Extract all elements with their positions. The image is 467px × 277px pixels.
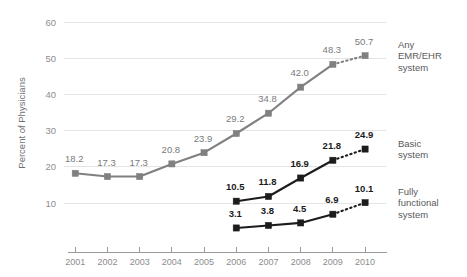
legend-label-line: system: [398, 209, 428, 220]
x-axis-tick-label: 2001: [65, 257, 85, 267]
data-point-label: 6.9: [325, 194, 338, 205]
data-point-marker: [104, 173, 110, 179]
y-axis-tick-label: 50: [45, 53, 56, 64]
series-fully-functional-system: 3.13.84.56.910.1: [229, 183, 374, 231]
data-point-label: 17.3: [97, 157, 116, 168]
data-point-marker: [265, 193, 271, 199]
data-point-marker: [265, 110, 271, 116]
data-point-label: 4.5: [293, 203, 307, 214]
legend-item-any-emr-ehr-system: AnyEMR/EHRsystem: [398, 39, 442, 73]
data-point-label: 11.8: [258, 176, 276, 187]
data-point-label: 3.1: [229, 208, 243, 219]
data-point-marker: [72, 170, 78, 176]
x-axis-tick-label: 2008: [291, 257, 311, 267]
data-point-marker: [201, 150, 207, 156]
y-axis-tick-label: 20: [45, 161, 56, 172]
series-line-projected: [333, 56, 365, 65]
series-any-emr-ehr-system: 18.217.317.320.823.929.234.842.048.350.7: [65, 36, 373, 180]
x-axis-tick-label: 2006: [226, 257, 246, 267]
y-axis-tick-label: 60: [45, 17, 56, 28]
data-point-marker: [265, 222, 271, 228]
legend-label-line: EMR/EHR: [398, 50, 442, 61]
x-axis-tick-label: 2002: [97, 257, 117, 267]
x-axis-tick-label: 2004: [162, 257, 182, 267]
line-chart: 102030405060Percent of Physicians2001200…: [0, 0, 467, 277]
data-point-marker: [362, 200, 368, 206]
data-point-label: 18.2: [65, 153, 84, 164]
legend-label-line: functional: [398, 197, 439, 208]
data-point-label: 42.0: [290, 67, 309, 78]
data-point-marker: [298, 220, 304, 226]
data-point-label: 10.5: [226, 181, 245, 192]
data-point-label: 50.7: [355, 36, 374, 47]
legend-label-line: Any: [398, 39, 415, 50]
y-axis-tick-label: 40: [45, 89, 56, 100]
data-point-label: 34.8: [258, 93, 277, 104]
x-axis-tick-label: 2010: [355, 257, 375, 267]
data-point-marker: [330, 211, 336, 217]
data-point-label: 16.9: [290, 158, 309, 169]
data-point-label: 48.3: [323, 44, 342, 55]
data-point-marker: [362, 146, 368, 152]
data-point-marker: [233, 198, 239, 204]
data-point-marker: [169, 161, 175, 167]
y-axis-tick-label: 30: [45, 125, 56, 136]
y-axis-title: Percent of Physicians: [16, 77, 27, 169]
legend-label-line: system: [398, 62, 428, 73]
x-axis-tick-label: 2003: [130, 257, 150, 267]
data-point-marker: [330, 157, 336, 163]
legend-label-line: system: [398, 149, 428, 160]
data-point-marker: [298, 175, 304, 181]
data-point-label: 23.9: [194, 133, 213, 144]
data-point-marker: [233, 130, 239, 136]
data-point-marker: [137, 173, 143, 179]
data-point-marker: [233, 225, 239, 231]
legend-label-line: Fully: [398, 186, 418, 197]
data-point-label: 29.2: [226, 113, 245, 124]
series-line: [236, 214, 333, 228]
data-point-marker: [298, 84, 304, 90]
data-point-label: 10.1: [355, 183, 374, 194]
legend-label-line: Basic: [398, 138, 421, 149]
data-point-marker: [330, 61, 336, 67]
legend-item-fully-functional-system: Fullyfunctionalsystem: [398, 186, 439, 220]
data-point-label: 21.8: [323, 140, 342, 151]
legend-item-basic-system: Basicsystem: [398, 138, 428, 161]
data-point-label: 17.3: [129, 157, 148, 168]
y-axis-tick-label: 10: [45, 198, 56, 209]
data-point-marker: [362, 53, 368, 59]
x-axis-tick-label: 2005: [194, 257, 214, 267]
x-axis-tick-label: 2007: [258, 257, 278, 267]
x-axis-tick-label: 2009: [323, 257, 343, 267]
data-point-label: 3.8: [261, 205, 274, 216]
data-point-label: 20.8: [162, 144, 181, 155]
data-point-label: 24.9: [355, 129, 374, 140]
chart-container: 102030405060Percent of Physicians2001200…: [0, 0, 467, 277]
